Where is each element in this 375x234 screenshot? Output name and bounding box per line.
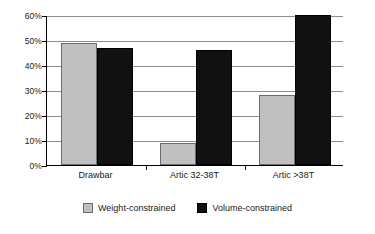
bar-volume-constrained-artic-32-38t (196, 50, 232, 165)
bar-weight-constrained-artic-38t (259, 95, 295, 165)
x-tick-label: Drawbar (78, 170, 112, 180)
legend-item-weight-constrained: Weight-constrained (83, 203, 175, 213)
y-tick-mark (42, 91, 47, 92)
y-axis: 0%10%20%30%40%50%60% (0, 16, 42, 166)
chart-legend: Weight-constrainedVolume-constrained (0, 203, 375, 213)
y-tick-label: 20% (25, 111, 42, 121)
y-tick-mark (42, 166, 47, 167)
y-tick-label: 30% (25, 86, 42, 96)
plot-area (46, 16, 343, 166)
y-tick-mark (42, 66, 47, 67)
bar-chart: 0%10%20%30%40%50%60% DrawbarArtic 32-38T… (0, 0, 375, 234)
y-tick-label: 50% (25, 36, 42, 46)
y-tick-label: 10% (25, 136, 42, 146)
y-tick-mark (42, 16, 47, 17)
bar-weight-constrained-artic-32-38t (160, 143, 196, 166)
y-tick-mark (42, 41, 47, 42)
bar-volume-constrained-artic-38t (295, 15, 331, 165)
bar-volume-constrained-drawbar (97, 48, 133, 166)
weight-constrained-swatch (83, 203, 93, 213)
bar-weight-constrained-drawbar (61, 43, 97, 166)
legend-item-volume-constrained: Volume-constrained (197, 203, 292, 213)
y-tick-mark (42, 141, 47, 142)
x-axis: DrawbarArtic 32-38TArtic >38T (46, 170, 343, 188)
legend-label: Volume-constrained (212, 203, 292, 213)
volume-constrained-swatch (197, 203, 207, 213)
x-tick-label: Artic >38T (273, 170, 314, 180)
y-tick-label: 40% (25, 61, 42, 71)
x-tick-label: Artic 32-38T (170, 170, 219, 180)
y-tick-label: 0% (30, 161, 43, 171)
legend-label: Weight-constrained (98, 203, 175, 213)
y-tick-mark (42, 116, 47, 117)
y-tick-label: 60% (25, 11, 42, 21)
